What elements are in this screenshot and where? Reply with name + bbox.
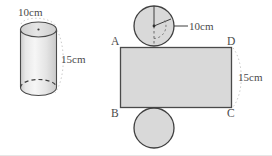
net-vertex-label-d: D — [227, 35, 235, 47]
net-radius-label: 10cm — [189, 20, 214, 32]
net-vertex-label-c: C — [227, 107, 235, 119]
net-vertex-label-b: B — [111, 107, 119, 119]
cylinder-body — [21, 30, 57, 96]
cylinder-top-center-dot — [37, 28, 39, 30]
geometry-figure: 10cm 15cm 10cm — [0, 0, 272, 156]
net-height-label: 15cm — [238, 71, 263, 83]
net-vertex-label-a: A — [111, 35, 120, 47]
cylinder-net: 10cm 15cm A D B C — [111, 6, 263, 148]
cylinder-diameter-label: 10cm — [18, 6, 43, 18]
net-lateral-rectangle — [121, 48, 232, 108]
net-bottom-circle — [134, 108, 174, 148]
cylinder-height-label: 15cm — [61, 53, 86, 65]
net-top-circle-center-dot — [153, 25, 156, 28]
cylinder-solid: 10cm 15cm — [18, 6, 86, 95]
figure-canvas: 10cm 15cm 10cm — [0, 0, 272, 156]
